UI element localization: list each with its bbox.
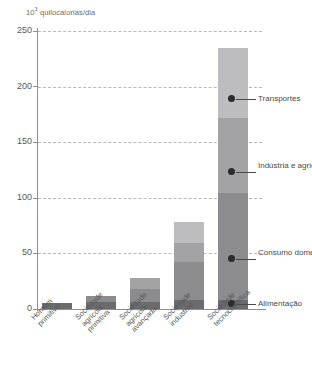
bar-segment-industria-agricultura bbox=[218, 118, 248, 194]
bar-segment-industria-agricultura bbox=[130, 278, 160, 289]
y-tick-150 bbox=[33, 142, 37, 143]
y-tick-250 bbox=[33, 31, 37, 32]
y-tick-200 bbox=[33, 86, 37, 87]
annotation-label-line-2: doméstico bbox=[294, 248, 312, 257]
energy-consumption-bar-chart: 103 quilocalorias/dia 250 200 150 100 50… bbox=[0, 0, 312, 373]
y-tick-label-100: 100 bbox=[8, 193, 32, 202]
bar-segment-transportes bbox=[218, 48, 248, 118]
annotation-leader-industria-agricultura bbox=[236, 172, 256, 173]
y-tick-label-0: 0 bbox=[8, 304, 32, 313]
bar-segment-consumo-domestico bbox=[218, 193, 248, 300]
y-tick-label-200: 200 bbox=[8, 82, 32, 91]
y-axis-tick-labels: 250 200 150 100 50 0 bbox=[0, 0, 32, 373]
annotation-label-alimentacao: Alimentação bbox=[258, 299, 302, 309]
y-tick-label-50: 50 bbox=[8, 248, 32, 257]
y-tick-100 bbox=[33, 198, 37, 199]
annotation-label-line-2: agricultura bbox=[298, 161, 312, 170]
y-axis-unit-suffix: quilocalorias/dia bbox=[38, 8, 96, 17]
annotation-dot-industria-agricultura bbox=[228, 168, 235, 175]
bar-segment-transportes bbox=[174, 222, 204, 243]
annotation-label-consumo-domestico: Consumo doméstico bbox=[258, 248, 312, 258]
annotation-dot-consumo-domestico bbox=[228, 255, 235, 262]
gridline-250 bbox=[38, 31, 262, 32]
annotation-label-industria-agricultura: Indústria e agricultura bbox=[258, 161, 312, 171]
y-tick-label-150: 150 bbox=[8, 137, 32, 146]
bar-sociedade-tecnocientifica bbox=[218, 48, 248, 309]
annotation-dot-transportes bbox=[228, 95, 235, 102]
bar-segment-industria-agricultura bbox=[174, 243, 204, 262]
y-axis-unit-label: 103 quilocalorias/dia bbox=[26, 6, 95, 17]
annotation-leader-transportes bbox=[236, 99, 256, 100]
annotation-leader-consumo-domestico bbox=[236, 259, 256, 260]
y-tick-50 bbox=[33, 253, 37, 254]
y-tick-label-250: 250 bbox=[8, 26, 32, 35]
annotation-label-line-1: Consumo bbox=[258, 248, 292, 257]
annotation-label-line-1: Indústria e bbox=[258, 161, 295, 170]
annotation-label-transportes: Transportes bbox=[258, 94, 300, 104]
